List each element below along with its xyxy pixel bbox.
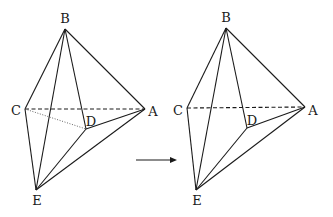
vertex-label-D: D (247, 113, 257, 128)
vertex-label-E: E (192, 193, 202, 208)
right-figure: B C A D E (173, 10, 318, 208)
edge-BD (65, 29, 86, 129)
edge-BA (226, 28, 305, 107)
vertex-label-A: A (307, 103, 318, 118)
edge-DE (196, 128, 247, 190)
vertex-label-A: A (147, 104, 158, 119)
vertex-label-C: C (173, 103, 183, 118)
edge-CD-dotted (25, 109, 86, 129)
vertex-label-E: E (32, 193, 42, 208)
vertex-label-D: D (86, 114, 96, 129)
vertex-label-B: B (60, 11, 70, 26)
edge-BC (25, 29, 65, 109)
edge-BD (226, 28, 247, 128)
diagram-canvas: B C A D E B C A D E (0, 0, 333, 217)
edge-CA-hidden (187, 107, 305, 108)
vertex-label-C: C (11, 103, 21, 118)
edge-BA (65, 29, 145, 109)
edge-CE (25, 109, 36, 190)
edge-BE (196, 28, 226, 190)
edge-CE (187, 108, 196, 190)
edge-BC (187, 28, 226, 108)
vertex-label-B: B (221, 10, 231, 25)
edge-DE (36, 129, 86, 190)
right-arrow-icon (136, 157, 177, 163)
left-figure: B C A D E (11, 11, 158, 208)
